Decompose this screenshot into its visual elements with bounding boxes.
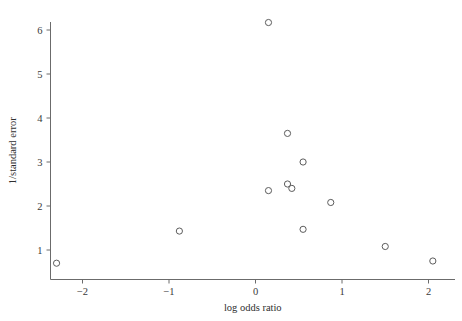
scatter-point [176, 228, 182, 234]
y-axis-ticks: 123456 [37, 25, 50, 256]
scatter-point [328, 199, 334, 205]
funnel-plot-figure: 123456 −2−1012 log odds ratio 1/standard… [0, 0, 462, 321]
y-tick-label: 2 [37, 201, 42, 212]
scatter-point [289, 185, 295, 191]
y-axis: 123456 [37, 22, 50, 280]
x-tick-label: −2 [77, 286, 88, 297]
plot-canvas: 123456 −2−1012 log odds ratio 1/standard… [0, 0, 462, 321]
y-tick-label: 1 [37, 245, 42, 256]
scatter-point [265, 19, 271, 25]
x-axis-title: log odds ratio [224, 302, 282, 313]
scatter-point [284, 130, 290, 136]
x-tick-label: −1 [163, 286, 174, 297]
x-axis: −2−1012 [51, 280, 456, 297]
y-tick-label: 4 [37, 113, 43, 124]
x-axis-ticks: −2−1012 [77, 280, 431, 297]
y-axis-title: 1/standard error [7, 117, 18, 184]
y-tick-label: 5 [37, 69, 42, 80]
scatter-point [265, 188, 271, 194]
scatter-points [53, 19, 435, 266]
x-tick-label: 1 [339, 286, 344, 297]
scatter-point [300, 159, 306, 165]
scatter-point [53, 260, 59, 266]
scatter-point [430, 258, 436, 264]
y-tick-label: 3 [37, 157, 42, 168]
y-tick-label: 6 [37, 25, 42, 36]
scatter-point [300, 226, 306, 232]
x-tick-label: 2 [426, 286, 431, 297]
scatter-point [382, 243, 388, 249]
x-tick-label: 0 [253, 286, 258, 297]
